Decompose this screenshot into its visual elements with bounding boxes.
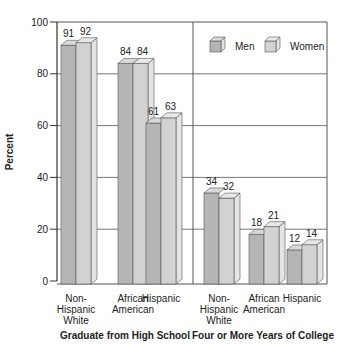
men-legend-icon	[210, 37, 225, 52]
legend-label-women: Women	[290, 41, 324, 52]
category-label: Hispanic	[57, 304, 95, 315]
value-label: 61	[148, 106, 160, 117]
bar-women: 14	[302, 228, 323, 284]
value-label: 21	[268, 210, 280, 221]
y-tick-label: 40	[37, 172, 49, 183]
y-tick-label: 0	[42, 276, 48, 287]
category-label: White	[206, 315, 232, 326]
value-label: 18	[251, 217, 263, 228]
y-tick-label: 60	[37, 120, 49, 131]
gridlines	[57, 22, 327, 284]
y-tick-label: 20	[37, 224, 49, 235]
y-axis-label: Percent	[4, 133, 15, 170]
bar-chart: 919284846163343218211214 020406080100 Me…	[0, 0, 345, 344]
category-label: American	[243, 304, 285, 315]
category-label: Hispanic	[142, 293, 180, 304]
value-label: 91	[63, 28, 75, 39]
value-label: 34	[206, 176, 218, 187]
women-legend-icon	[265, 37, 280, 52]
x-axis-labels: Non-HispanicWhiteAfricanAmericanHispanic…	[57, 293, 335, 341]
category-label: White	[63, 315, 89, 326]
category-label: African	[248, 293, 279, 304]
value-label: 14	[306, 228, 318, 239]
category-label: Non-	[208, 293, 230, 304]
value-label: 84	[137, 46, 149, 57]
panel-title: Graduate from High School	[60, 330, 190, 341]
bar-women: 21	[264, 210, 285, 284]
y-axis: 020406080100	[31, 17, 57, 287]
y-tick-label: 80	[37, 68, 49, 79]
bars: 919284846163343218211214	[61, 26, 323, 284]
bar-women: 32	[219, 181, 240, 284]
bar-women: 92	[76, 26, 97, 284]
value-label: 12	[289, 233, 301, 244]
value-label: 63	[165, 101, 177, 112]
panel-title: Four or More Years of College	[192, 330, 335, 341]
category-label: Non-	[65, 293, 87, 304]
value-label: 32	[223, 181, 235, 192]
value-label: 92	[80, 26, 92, 37]
bar-women: 63	[161, 101, 182, 284]
category-label: Hispanic	[283, 293, 321, 304]
category-label: American	[112, 304, 154, 315]
legend-label-men: Men	[235, 41, 254, 52]
y-tick-label: 100	[31, 17, 48, 28]
category-label: Hispanic	[200, 304, 238, 315]
value-label: 84	[120, 46, 132, 57]
legend: MenWomen	[210, 37, 324, 52]
